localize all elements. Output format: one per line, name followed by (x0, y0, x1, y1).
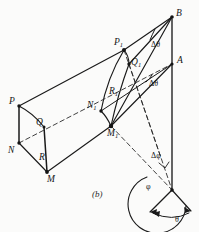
label-point-Q1: Q1 (131, 58, 141, 68)
label-point-N1-sub: 1 (93, 104, 96, 111)
label-point-M1-sub: 1 (115, 132, 118, 139)
label-point-M1-base: M (107, 128, 115, 138)
edge-B-P1 (124, 17, 172, 50)
label-point-P: P (9, 97, 15, 107)
dashed-M1-origin (111, 126, 172, 190)
theta-arrow-leg (150, 190, 172, 212)
edge-N1-M1 (101, 111, 111, 126)
dot-A (170, 62, 173, 65)
label-point-R1: R1 (109, 87, 118, 97)
edge-B-M1 (111, 17, 172, 126)
figure-caption: (b) (92, 190, 103, 199)
dot-N (17, 141, 20, 144)
label-point-Q1-sub: 1 (138, 61, 141, 68)
label-point-M: M (47, 175, 55, 185)
label-point-A: A (177, 56, 183, 66)
label-delta-phi: Δφ (151, 152, 161, 160)
dot-P (17, 104, 20, 107)
edge-M1-M (47, 126, 111, 172)
label-theta: θ (175, 216, 179, 224)
label-point-N1: N1 (87, 101, 97, 111)
dot-P1 (122, 48, 126, 52)
dot-N1 (99, 109, 102, 112)
dot-O (170, 188, 174, 192)
label-point-Q: Q (36, 118, 43, 128)
theta-arrow-leg-2 (172, 190, 191, 211)
label-point-P1: P1 (114, 38, 123, 48)
delta-phi-right-angle (159, 162, 169, 168)
label-point-R: R (39, 153, 45, 163)
edge-Q-M (44, 127, 47, 172)
label-delta-theta-upper: Δθ (151, 41, 160, 49)
label-point-R1-sub: 1 (115, 90, 118, 97)
label-point-R1-base: R (109, 86, 115, 96)
label-point-P1-base: P (114, 37, 120, 47)
label-point-P1-sub: 1 (120, 41, 123, 48)
label-delta-theta-lower: Δθ (149, 80, 158, 88)
label-point-M1: M1 (107, 129, 118, 139)
figure-container: B A P Q N R M P1 Q1 N1 R1 M1 Δθ Δθ Δφ φ … (0, 0, 199, 232)
label-point-Q1-base: Q (131, 57, 138, 67)
dot-B (170, 15, 174, 19)
label-point-B: B (176, 9, 182, 19)
edge-P1-N1 (101, 50, 124, 111)
edge-P1-P (19, 50, 124, 106)
arrowheads (150, 207, 191, 217)
edge-A-M1 (111, 64, 172, 126)
dashed-P1-origin (124, 50, 160, 155)
label-point-N: N (8, 146, 14, 156)
label-phi: φ (146, 183, 151, 191)
